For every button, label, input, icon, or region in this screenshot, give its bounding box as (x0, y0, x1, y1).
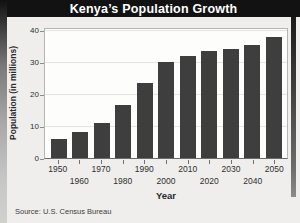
y-tick-mark-0 (40, 159, 44, 160)
bar-2010 (180, 56, 196, 158)
bar-1990 (137, 83, 153, 158)
x-tick-mark-2020 (209, 160, 210, 164)
page-edge-shadow (291, 17, 296, 197)
bar-2050 (266, 37, 282, 158)
y-axis-title: Population (in millions) (8, 28, 18, 158)
x-tick-mark-2040 (253, 160, 254, 164)
x-tick-mark-1980 (123, 160, 124, 164)
x-tick-mark-2000 (166, 160, 167, 164)
bar-1980 (115, 105, 131, 158)
y-tick-label-20: 20 (21, 90, 39, 100)
y-tick-mark-40 (40, 31, 44, 32)
chart-title: Kenya’s Population Growth (70, 2, 238, 16)
x-tick-label-2020: 2020 (200, 176, 219, 186)
y-tick-mark-10 (40, 127, 44, 128)
y-tick-mark-30 (40, 63, 44, 64)
bar-1970 (94, 123, 110, 158)
x-tick-label-2050: 2050 (265, 164, 284, 174)
plot-area (44, 28, 288, 159)
bar-1950 (51, 139, 67, 158)
x-tick-label-2030: 2030 (222, 164, 241, 174)
y-tick-label-0: 0 (21, 154, 39, 164)
y-tick-label-40: 40 (21, 26, 39, 36)
x-tick-label-1960: 1960 (70, 176, 89, 186)
page-gutter-shadow (0, 0, 7, 223)
x-tick-label-2010: 2010 (178, 164, 197, 174)
x-tick-mark-1960 (79, 160, 80, 164)
x-tick-label-1950: 1950 (48, 164, 67, 174)
source-note: Source: U.S. Census Bureau (15, 207, 111, 216)
x-tick-label-1970: 1970 (92, 164, 111, 174)
bar-2000 (158, 62, 174, 158)
y-tick-mark-20 (40, 95, 44, 96)
x-tick-label-2040: 2040 (243, 176, 262, 186)
bar-2040 (244, 45, 260, 158)
bar-series (45, 29, 287, 158)
bar-1960 (72, 132, 88, 158)
x-tick-label-1990: 1990 (135, 164, 154, 174)
y-tick-label-30: 30 (21, 58, 39, 68)
bar-2020 (201, 51, 217, 158)
bar-2030 (223, 49, 239, 158)
x-axis-title: Year (156, 190, 176, 201)
y-tick-label-10: 10 (21, 122, 39, 132)
chart-title-banner: Kenya’s Population Growth (7, 0, 300, 17)
x-tick-label-2000: 2000 (157, 176, 176, 186)
figure: Kenya’s Population Growth 01020304019501… (0, 0, 300, 223)
x-tick-label-1980: 1980 (113, 176, 132, 186)
